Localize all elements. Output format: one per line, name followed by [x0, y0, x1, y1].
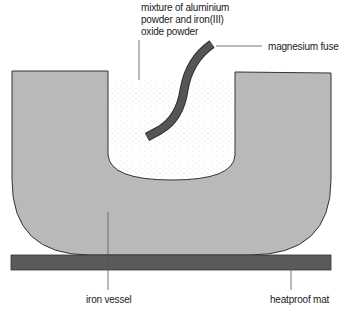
label-mixture-line2: powder and iron(III) [141, 14, 251, 26]
heatproof-mat [11, 255, 331, 270]
powder-mixture [109, 80, 235, 180]
label-heatproof-mat: heatproof mat [270, 294, 329, 306]
label-iron-vessel: iron vessel [86, 294, 132, 306]
label-magnesium-fuse: magnesium fuse [268, 41, 339, 53]
label-mixture-line1: mixture of aluminium [141, 2, 251, 14]
thermite-apparatus-diagram: mixture of aluminium powder and iron(III… [0, 0, 341, 311]
label-mixture-line3: oxide powder [141, 26, 251, 38]
label-mixture: mixture of aluminium powder and iron(III… [141, 2, 251, 38]
